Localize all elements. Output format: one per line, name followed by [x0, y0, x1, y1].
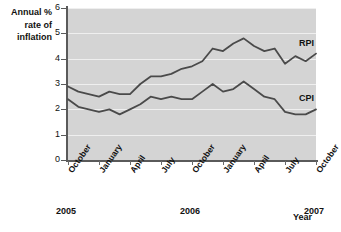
series-label-rpi: RPI: [299, 38, 314, 48]
y-tick-mark: [61, 84, 66, 85]
y-tick-mark: [61, 33, 66, 34]
y-tick-mark: [61, 109, 66, 110]
y-tick-mark: [61, 8, 66, 9]
x-axis-year-label: 2006: [180, 206, 200, 216]
y-tick-mark: [61, 135, 66, 136]
series-line-rpi: [68, 38, 316, 96]
series-label-cpi: CPI: [299, 93, 314, 103]
y-tick-mark: [61, 160, 66, 161]
x-axis-year-label: 2005: [56, 206, 76, 216]
x-axis-year-label: 2007: [304, 206, 324, 216]
series-line-cpi: [68, 81, 316, 114]
y-tick-mark: [61, 59, 66, 60]
